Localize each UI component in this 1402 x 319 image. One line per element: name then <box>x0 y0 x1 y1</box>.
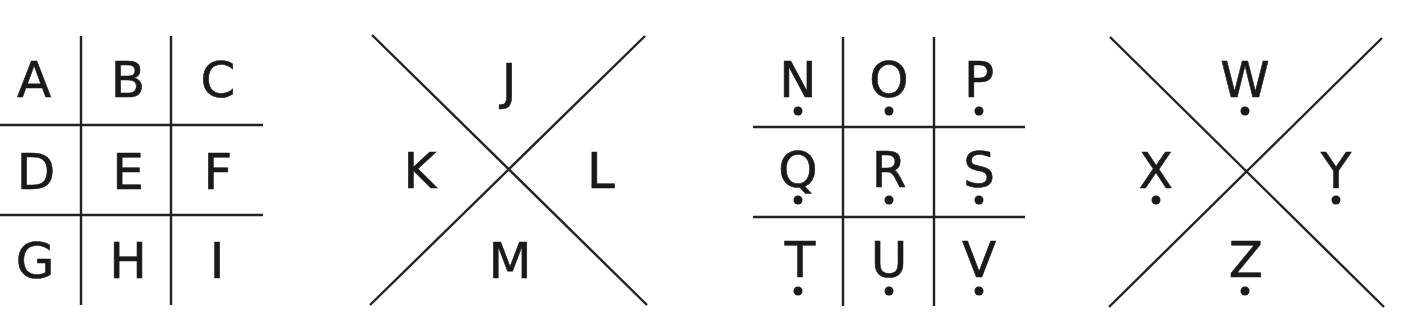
dot-marker <box>794 196 803 205</box>
cipher-letter: O <box>869 51 908 109</box>
cipher-letter: E <box>112 143 144 201</box>
cipher-letter: H <box>109 232 147 290</box>
cipher-letter: X <box>1139 142 1173 200</box>
cipher-letter: J <box>499 53 517 111</box>
dot-marker <box>1152 196 1161 205</box>
cipher-letter: F <box>204 143 233 201</box>
dot-marker <box>794 107 803 116</box>
cipher-letter: G <box>16 232 55 290</box>
cipher-letter: S <box>963 141 995 199</box>
panel-grid-plain: A B C D E F G H I <box>0 36 263 305</box>
panel-grid-dotted: N O P Q R S T U V <box>753 37 1025 306</box>
dot-marker <box>975 107 984 116</box>
cipher-letter: P <box>964 51 994 109</box>
dot-marker <box>1241 107 1250 116</box>
dot-marker <box>885 287 894 296</box>
cipher-letter: C <box>201 51 236 109</box>
dot-marker <box>885 196 894 205</box>
dot-marker <box>975 287 984 296</box>
dot-marker <box>1241 287 1250 296</box>
cipher-letter: L <box>587 142 615 200</box>
panel-x-dotted: W X Y Z <box>1109 37 1384 307</box>
cipher-letter: W <box>1220 51 1269 109</box>
dot-marker <box>794 287 803 296</box>
cipher-letter: K <box>404 142 438 200</box>
cipher-letter: T <box>784 231 816 289</box>
cipher-letter: Y <box>1320 142 1352 200</box>
cipher-letter: I <box>210 232 225 290</box>
cipher-letter: M <box>488 232 531 290</box>
cipher-letter: R <box>872 141 907 199</box>
cipher-letter: B <box>111 51 145 109</box>
cipher-letter: U <box>871 231 908 289</box>
cipher-letter: V <box>962 231 996 289</box>
dot-marker <box>975 196 984 205</box>
cipher-letter: Q <box>778 141 817 199</box>
dot-marker <box>885 107 894 116</box>
cipher-letter: N <box>779 51 816 109</box>
cipher-letter: D <box>17 143 56 201</box>
dot-marker <box>1332 196 1341 205</box>
pigpen-cipher-diagram: A B C D E F G H I J K L M N O P Q R S <box>0 0 1402 319</box>
panel-x-plain: J K L M <box>370 35 647 305</box>
cipher-letter: A <box>17 51 51 109</box>
cipher-letter: Z <box>1229 231 1263 289</box>
